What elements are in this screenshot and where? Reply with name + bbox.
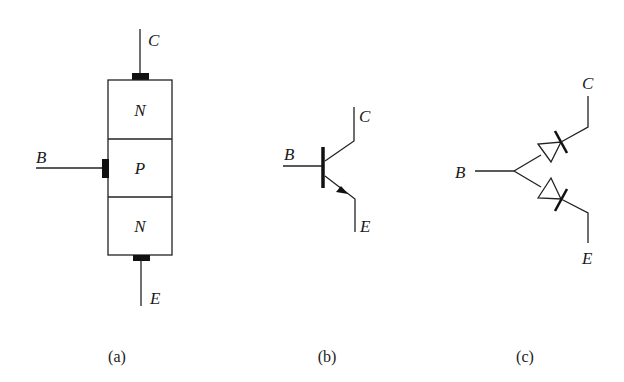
panel-c-diode-model: B C E (c) — [455, 74, 594, 366]
layer-n-top: N — [133, 101, 147, 120]
panel-a-structure: C N P N B E (a) — [36, 29, 172, 366]
cb-diode-triangle-icon — [538, 142, 561, 162]
label-base-c: B — [455, 163, 466, 182]
emitter-arrow-icon — [336, 186, 348, 194]
caption-a: (a) — [108, 348, 126, 366]
collector-contact — [132, 73, 149, 80]
label-base-a: B — [36, 148, 47, 167]
bjt-figure: C N P N B E (a) B C E (b) B — [0, 0, 624, 382]
caption-b: (b) — [318, 348, 337, 366]
label-collector-b: C — [359, 107, 371, 126]
layer-p: P — [134, 159, 145, 178]
base-contact — [102, 159, 109, 178]
base-to-cb-diode — [514, 155, 541, 171]
label-emitter-a: E — [149, 289, 161, 308]
caption-c: (c) — [516, 348, 534, 366]
emitter-lead — [325, 176, 355, 232]
label-emitter-c: E — [581, 249, 593, 268]
collector-lead — [561, 96, 588, 142]
be-diode-triangle-icon — [538, 178, 561, 199]
base-to-be-diode — [514, 171, 541, 187]
label-collector-a: C — [148, 31, 160, 50]
layer-n-bottom: N — [133, 217, 147, 236]
label-collector-c: C — [582, 74, 594, 93]
collector-lead — [325, 107, 354, 161]
emitter-contact — [133, 255, 150, 261]
be-diode-cathode-bar — [555, 189, 567, 211]
label-base-b: B — [284, 145, 295, 164]
panel-b-symbol: B C E (b) — [283, 107, 371, 366]
label-emitter-b: E — [359, 217, 371, 236]
emitter-lead — [561, 199, 588, 243]
